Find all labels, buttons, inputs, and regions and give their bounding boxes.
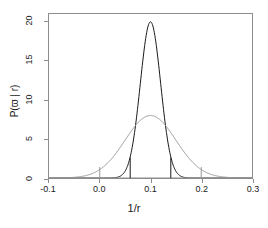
x-axis-label: 1/r — [0, 203, 268, 214]
curves-svg — [49, 14, 252, 178]
y-tick-label: 20 — [25, 11, 34, 29]
x-tick-label: 0.2 — [187, 185, 217, 194]
x-tick-mark — [202, 179, 203, 183]
x-tick-mark — [253, 179, 254, 183]
x-tick-mark — [99, 179, 100, 183]
y-tick-label: 10 — [25, 90, 34, 108]
y-tick-label: 15 — [25, 51, 34, 69]
chart-figure: P(ϖ | r) 05101520 -0.10.00.10.20.3 1/r — [0, 0, 268, 228]
x-tick-label: 0.1 — [136, 185, 166, 194]
x-tick-label: -0.1 — [33, 185, 63, 194]
curve-wide-posterior — [49, 116, 252, 178]
curve-narrow-posterior — [49, 22, 252, 178]
y-tick-label: 5 — [25, 130, 34, 148]
plot-area — [48, 13, 253, 179]
y-axis-label: P(ϖ | r) — [10, 66, 20, 136]
x-tick-label: 0.3 — [238, 185, 268, 194]
x-tick-mark — [48, 179, 49, 183]
x-tick-label: 0.0 — [84, 185, 114, 194]
x-tick-mark — [151, 179, 152, 183]
